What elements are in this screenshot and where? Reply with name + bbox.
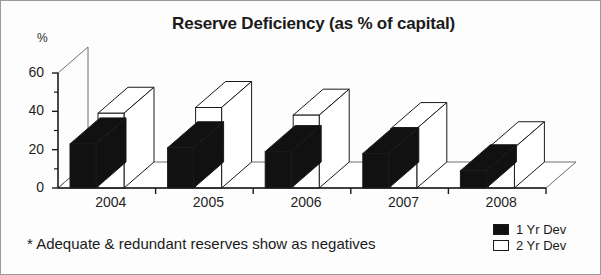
legend-item: 2 Yr Dev (493, 238, 566, 253)
y-tick-label: 20 (14, 141, 44, 157)
bars-layer (70, 82, 544, 189)
x-tick-label: 2005 (178, 194, 238, 210)
x-tick-label: 2006 (276, 194, 336, 210)
legend: 1 Yr Dev 2 Yr Dev (493, 222, 566, 254)
x-tick-label: 2008 (471, 194, 531, 210)
y-tick-label: 40 (14, 102, 44, 118)
legend-swatch-2-yr-dev (493, 240, 509, 251)
x-tick-label: 2004 (81, 194, 141, 210)
y-tick-label: 0 (14, 179, 44, 195)
legend-label-2-yr-dev: 2 Yr Dev (516, 238, 566, 253)
legend-swatch-1-yr-dev (493, 224, 509, 235)
legend-label-1-yr-dev: 1 Yr Dev (516, 222, 566, 237)
footnote-text: * Adequate & redundant reserves show as … (27, 235, 376, 252)
chart-figure: Reserve Deficiency (as % of capital) % 0… (0, 0, 601, 275)
legend-item: 1 Yr Dev (493, 222, 566, 237)
x-tick-label: 2007 (374, 194, 434, 210)
y-tick-label: 60 (14, 64, 44, 80)
